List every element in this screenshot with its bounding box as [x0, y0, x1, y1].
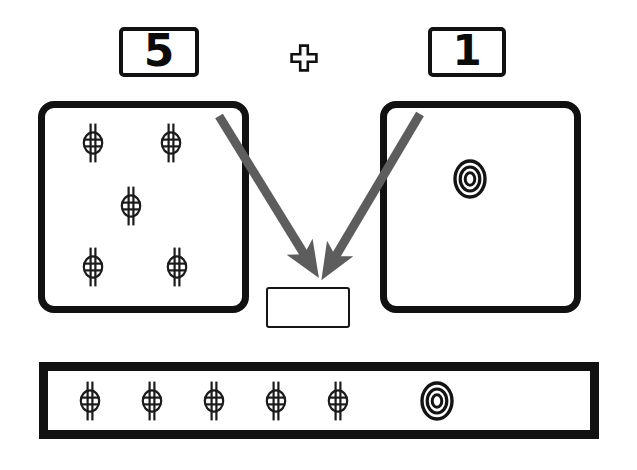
- phi-token-icon[interactable]: [76, 380, 104, 422]
- numeral-card-right-addend[interactable]: 1: [428, 27, 506, 77]
- phi-token-icon[interactable]: [138, 380, 166, 422]
- bottom-tray[interactable]: [39, 362, 599, 439]
- numeral-card-left-addend[interactable]: 5: [119, 27, 199, 77]
- answer-box-value: [268, 289, 348, 326]
- phi-token-icon[interactable]: [262, 380, 290, 422]
- group-box-right[interactable]: [380, 101, 581, 313]
- phi-token-icon[interactable]: [157, 122, 185, 164]
- phi-token-icon[interactable]: [324, 380, 352, 422]
- phi-token-icon[interactable]: [79, 246, 107, 288]
- bullseye-icon[interactable]: [420, 381, 454, 421]
- left-addend-value: 5: [144, 29, 175, 73]
- phi-token-icon[interactable]: [163, 246, 191, 288]
- phi-token-icon[interactable]: [79, 122, 107, 164]
- phi-token-icon[interactable]: [117, 185, 145, 227]
- phi-token-icon[interactable]: [200, 380, 228, 422]
- answer-box[interactable]: [266, 287, 350, 328]
- bullseye-icon[interactable]: [453, 159, 487, 199]
- worksheet-canvas: 5 1: [0, 0, 637, 470]
- right-addend-value: 1: [452, 30, 481, 72]
- plus-sign-icon: [290, 44, 318, 72]
